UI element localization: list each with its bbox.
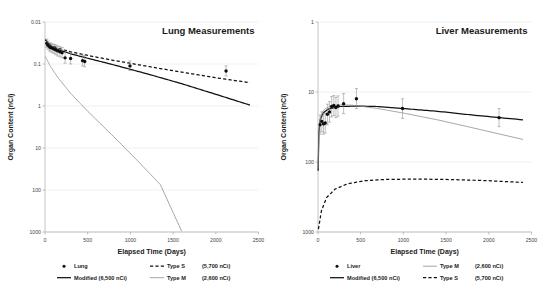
x-axis-title: Elapsed Time (Days) <box>118 248 186 256</box>
legend-item-type-s[interactable]: Type S(5,700 nCi) <box>150 263 230 269</box>
y-tick-label-0.1: 100 <box>32 187 41 193</box>
y-tick-label-1: 1000 <box>302 229 314 235</box>
data-point <box>400 107 403 110</box>
x-tick-label-2000: 2000 <box>210 237 222 243</box>
legend-label-type-s: Type S <box>440 275 458 281</box>
data-point <box>318 123 321 126</box>
x-tick-label-500: 500 <box>83 237 92 243</box>
data-point <box>354 97 357 100</box>
series-line-type-m-2-600-nci <box>318 105 523 169</box>
y-tick-label-0.01: 1000 <box>29 229 41 235</box>
y-tick-label-10: 1 <box>38 103 41 109</box>
x-tick-label-2000: 2000 <box>483 237 495 243</box>
legend-label-type-s: Type S <box>167 263 185 269</box>
legend-item-lung-marker[interactable]: Lung <box>63 263 89 269</box>
two-panel-figure: 10001001010.10.0105001000150020002500Ela… <box>0 0 545 303</box>
legend-value-type-m: (2,600 nCi) <box>475 263 503 269</box>
legend-value-type-s: (5,700 nCi) <box>202 263 230 269</box>
legend-label-modified: Modified (6,500 nCi) <box>74 275 127 281</box>
legend-label-type-m: Type M <box>167 275 186 281</box>
y-axis-title: Organ Content (nCi) <box>280 94 288 161</box>
series-line-type-s-5-700-nci <box>318 179 523 229</box>
legend-marker-icon <box>63 265 66 268</box>
data-point <box>497 116 500 119</box>
series-line-modified-6-500-nci <box>318 106 523 171</box>
chart-panel-lung: 10001001010.10.0105001000150020002500Ela… <box>0 0 273 303</box>
data-point <box>69 57 72 60</box>
legend-item-type-m[interactable]: Type M(2,600 nCi) <box>423 263 503 269</box>
x-tick-label-1500: 1500 <box>440 237 452 243</box>
x-tick-label-0: 0 <box>44 237 47 243</box>
y-axis-title: Organ Content (nCi) <box>7 94 15 161</box>
data-point <box>83 60 86 63</box>
x-tick-label-1500: 1500 <box>167 237 179 243</box>
x-tick-label-1000: 1000 <box>397 237 409 243</box>
legend-item-modified[interactable]: Modified (6,500 nCi) <box>57 275 127 281</box>
x-tick-label-2500: 2500 <box>253 237 265 243</box>
legend-label-liver-marker: Liver <box>347 263 361 269</box>
series-line-type-s-5-700-nci <box>45 40 250 83</box>
data-point <box>63 56 66 59</box>
y-tick-label-1: 10 <box>35 145 41 151</box>
series-line-modified-6-500-nci <box>45 40 250 105</box>
chart-title: Lung Measurements <box>162 25 254 36</box>
data-point <box>336 104 339 107</box>
legend-item-type-m[interactable]: Type M(2,600 nCi) <box>150 275 230 281</box>
y-tick-label-100: 0.1 <box>34 61 41 67</box>
y-tick-label-100: 10 <box>308 89 314 95</box>
legend-value-type-s: (5,700 nCi) <box>475 275 503 281</box>
chart-title: Liver Measurements <box>435 25 527 36</box>
x-tick-label-500: 500 <box>356 237 365 243</box>
legend-item-modified[interactable]: Modified (6,500 nCi) <box>330 275 400 281</box>
y-tick-label-10: 100 <box>305 159 314 165</box>
series-scatter-liver <box>318 89 500 135</box>
data-point <box>60 51 63 54</box>
y-tick-label-1000: 0.01 <box>31 19 41 25</box>
data-point <box>323 121 326 124</box>
legend-value-type-m: (2,600 nCi) <box>202 275 230 281</box>
legend-item-type-s[interactable]: Type S(5,700 nCi) <box>423 275 503 281</box>
x-tick-label-0: 0 <box>316 237 319 243</box>
legend-label-modified: Modified (6,500 nCi) <box>347 275 400 281</box>
chart-svg-lung: 10001001010.10.0105001000150020002500Ela… <box>0 0 273 303</box>
legend-label-type-m: Type M <box>440 263 459 269</box>
chart-panel-liver: 100010010105001000150020002500Elapsed Ti… <box>273 0 545 303</box>
x-axis-title: Elapsed Time (Days) <box>390 248 458 256</box>
legend-marker-icon <box>335 265 338 268</box>
data-point <box>327 110 330 113</box>
x-tick-label-2500: 2500 <box>525 237 537 243</box>
legend-label-lung-marker: Lung <box>74 263 88 269</box>
data-point <box>128 64 131 67</box>
legend-item-liver-marker[interactable]: Liver <box>335 263 361 269</box>
data-point <box>224 69 227 72</box>
y-tick-label-1000: 1 <box>311 19 314 25</box>
data-point <box>341 102 344 105</box>
x-tick-label-1000: 1000 <box>125 237 137 243</box>
series-line-type-m-2-600-nci <box>45 57 181 232</box>
chart-svg-liver: 100010010105001000150020002500Elapsed Ti… <box>273 0 545 303</box>
